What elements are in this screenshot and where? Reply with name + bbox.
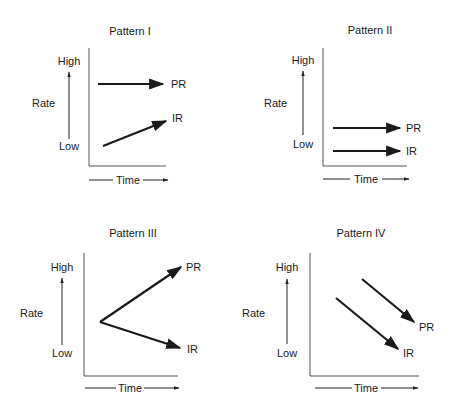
ir-arrow-icon	[100, 322, 180, 348]
y-axis-label: Rate	[242, 307, 265, 319]
ir-arrow-icon	[336, 298, 398, 349]
ir-label: IR	[187, 343, 198, 355]
pr-label: PR	[171, 78, 186, 90]
axes	[89, 48, 166, 166]
ir-arrow-icon	[103, 121, 166, 146]
y-axis-label: Rate	[32, 97, 55, 109]
pr-label: PR	[419, 321, 434, 333]
y-high-label: High	[51, 261, 74, 273]
panel-pattern-3: Pattern III High Rate Low PR IR Time	[20, 227, 201, 394]
y-high-label: High	[58, 55, 81, 67]
y-axis-label: Rate	[20, 307, 43, 319]
y-axis-label: Rate	[264, 97, 287, 109]
panel-title: Pattern II	[348, 24, 393, 36]
x-axis-label: Time	[116, 174, 140, 186]
y-high-label: High	[292, 54, 315, 66]
panel-title: Pattern III	[109, 227, 157, 239]
x-axis-label: Time	[118, 382, 142, 394]
ir-label: IR	[406, 145, 417, 157]
panel-pattern-4: Pattern IV High Rate Low PR IR Time	[242, 227, 434, 394]
y-low-label: Low	[52, 347, 72, 359]
x-axis-label: Time	[354, 173, 378, 185]
pr-arrow-icon	[362, 279, 414, 322]
panel-pattern-1: Pattern I High Rate Low PR IR Time	[32, 25, 186, 186]
x-axis-label: Time	[354, 382, 378, 394]
panel-title: Pattern I	[109, 25, 151, 37]
axes	[84, 253, 178, 376]
ir-label: IR	[172, 112, 183, 124]
patterns-diagram: Pattern I High Rate Low PR IR Time Patte…	[0, 0, 456, 410]
pr-label: PR	[406, 122, 421, 134]
y-low-label: Low	[59, 140, 79, 152]
panel-title: Pattern IV	[337, 227, 387, 239]
axes	[323, 48, 407, 166]
ir-label: IR	[403, 347, 414, 359]
y-high-label: High	[276, 261, 299, 273]
pr-arrow-icon	[100, 267, 181, 322]
y-low-label: Low	[293, 138, 313, 150]
y-low-label: Low	[277, 347, 297, 359]
panel-pattern-2: Pattern II High Rate Low PR IR Time	[264, 24, 421, 185]
pr-label: PR	[186, 261, 201, 273]
